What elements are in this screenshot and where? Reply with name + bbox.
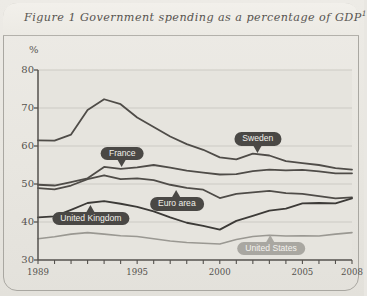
- y-axis-tick-label: 40: [14, 216, 34, 227]
- series-callout-united-kingdom: United Kingdom: [52, 212, 129, 226]
- series-callout-label: United Kingdom: [60, 213, 121, 223]
- y-axis-tick-label: 30: [14, 254, 34, 265]
- x-axis-tick-label: 2000: [209, 267, 231, 277]
- callout-pointer: [172, 190, 180, 197]
- y-axis-tick-label: 80: [14, 64, 34, 75]
- callout-pointer: [253, 146, 261, 153]
- series-callout-label: United States: [245, 243, 297, 253]
- callout-pointer: [267, 235, 275, 242]
- x-axis-tick-label: 2005: [291, 267, 313, 277]
- y-axis-tick-label: 50: [14, 178, 34, 189]
- y-axis-tick-label: 60: [14, 140, 34, 151]
- x-axis-tick-label: 1989: [27, 267, 49, 277]
- y-axis-tick-label: 70: [14, 102, 34, 113]
- series-callout-label: Sweden: [242, 133, 273, 143]
- series-callout-united-states: United States: [237, 242, 305, 256]
- x-axis-tick-label: 2008: [341, 267, 363, 277]
- callout-pointer: [86, 205, 94, 212]
- plot-background: [38, 70, 352, 260]
- series-callout-label: Euro area: [158, 198, 196, 208]
- series-callout-sweden: Sweden: [234, 132, 281, 146]
- series-callout-euro-area: Euro area: [150, 197, 204, 211]
- callout-pointer: [118, 160, 126, 167]
- series-callout-label: France: [109, 148, 136, 158]
- x-axis-tick-label: 1995: [126, 267, 148, 277]
- series-callout-france: France: [101, 147, 144, 161]
